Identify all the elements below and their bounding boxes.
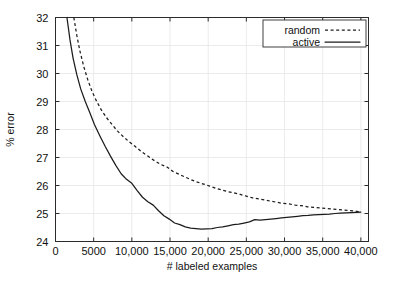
y-tick-label: 31 <box>36 40 48 52</box>
x-tick-label: 30,000 <box>268 245 302 257</box>
x-axis-title: # labeled examples <box>167 260 257 272</box>
error-vs-labeled-examples-chart: 0500010,00015,00020,00025,00030,00035,00… <box>0 0 396 289</box>
x-tick-label: 15,000 <box>153 245 187 257</box>
legend-label-random: random <box>284 24 320 36</box>
y-tick-label: 25 <box>36 208 48 220</box>
y-tick-label: 24 <box>36 236 48 248</box>
y-tick-label: 28 <box>36 124 48 136</box>
y-tick-label: 26 <box>36 180 48 192</box>
x-tick-label: 35,000 <box>306 245 340 257</box>
y-tick-label: 29 <box>36 96 48 108</box>
chart-container: 0500010,00015,00020,00025,00030,00035,00… <box>0 0 396 289</box>
y-tick-labels: 242526272829303132 <box>36 12 48 248</box>
gridlines <box>56 18 369 242</box>
chart-legend: randomactive <box>263 20 366 48</box>
x-tick-label: 40,000 <box>344 245 378 257</box>
x-tick-label: 0 <box>52 245 58 257</box>
legend-label-active: active <box>293 36 321 48</box>
y-tick-label: 30 <box>36 68 48 80</box>
data-series <box>67 18 361 230</box>
x-tick-label: 25,000 <box>230 245 264 257</box>
y-tick-label: 27 <box>36 152 48 164</box>
x-tick-label: 5000 <box>81 245 105 257</box>
x-tick-label: 10,000 <box>115 245 149 257</box>
x-tick-labels: 0500010,00015,00020,00025,00030,00035,00… <box>52 245 377 257</box>
y-tick-label: 32 <box>36 12 48 24</box>
x-tick-label: 20,000 <box>191 245 225 257</box>
y-axis-title: % error <box>4 112 16 147</box>
